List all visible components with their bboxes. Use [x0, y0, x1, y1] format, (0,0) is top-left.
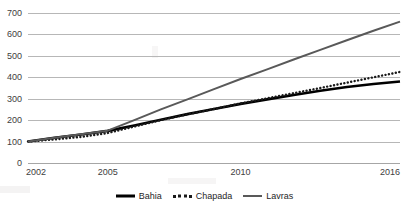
- y-tick-label-700: 700: [7, 9, 22, 18]
- legend-item-lavras[interactable]: Lavras: [243, 191, 293, 201]
- legend-label: Lavras: [266, 191, 293, 201]
- y-tick-label-600: 600: [7, 30, 22, 39]
- legend-item-bahia[interactable]: Bahia: [116, 191, 162, 201]
- x-tick-label-2002: 2002: [26, 167, 46, 177]
- legend-marker-bahia-icon: [116, 192, 135, 201]
- y-tick-label-500: 500: [7, 52, 22, 61]
- legend-label: Chapada: [196, 191, 233, 201]
- legend-marker-chapada-icon: [173, 192, 192, 201]
- plot-area: [28, 13, 400, 163]
- legend-label: Bahia: [139, 191, 162, 201]
- chart-screenshot: 7006005004003002001000 2002200520102016 …: [0, 0, 409, 210]
- y-tick-label-100: 100: [7, 138, 22, 147]
- y-tick-label-400: 400: [7, 73, 22, 82]
- x-axis-labels: 2002200520102016: [0, 167, 409, 181]
- series-line-chapada: [28, 72, 400, 142]
- legend-marker-lavras-icon: [243, 192, 262, 201]
- x-tick-label-2010: 2010: [231, 167, 251, 177]
- legend-item-chapada[interactable]: Chapada: [173, 191, 233, 201]
- chart-legend: BahiaChapadaLavras: [0, 191, 409, 201]
- x-tick-label-2016: 2016: [380, 167, 400, 177]
- series-line-bahia: [28, 82, 400, 142]
- series-layer: [28, 13, 400, 163]
- series-line-lavras: [28, 22, 400, 142]
- gridline-0: [28, 163, 400, 164]
- x-tick-label-2005: 2005: [98, 167, 118, 177]
- y-tick-label-300: 300: [7, 95, 22, 104]
- chart-title: [0, 0, 409, 1]
- y-tick-label-200: 200: [7, 116, 22, 125]
